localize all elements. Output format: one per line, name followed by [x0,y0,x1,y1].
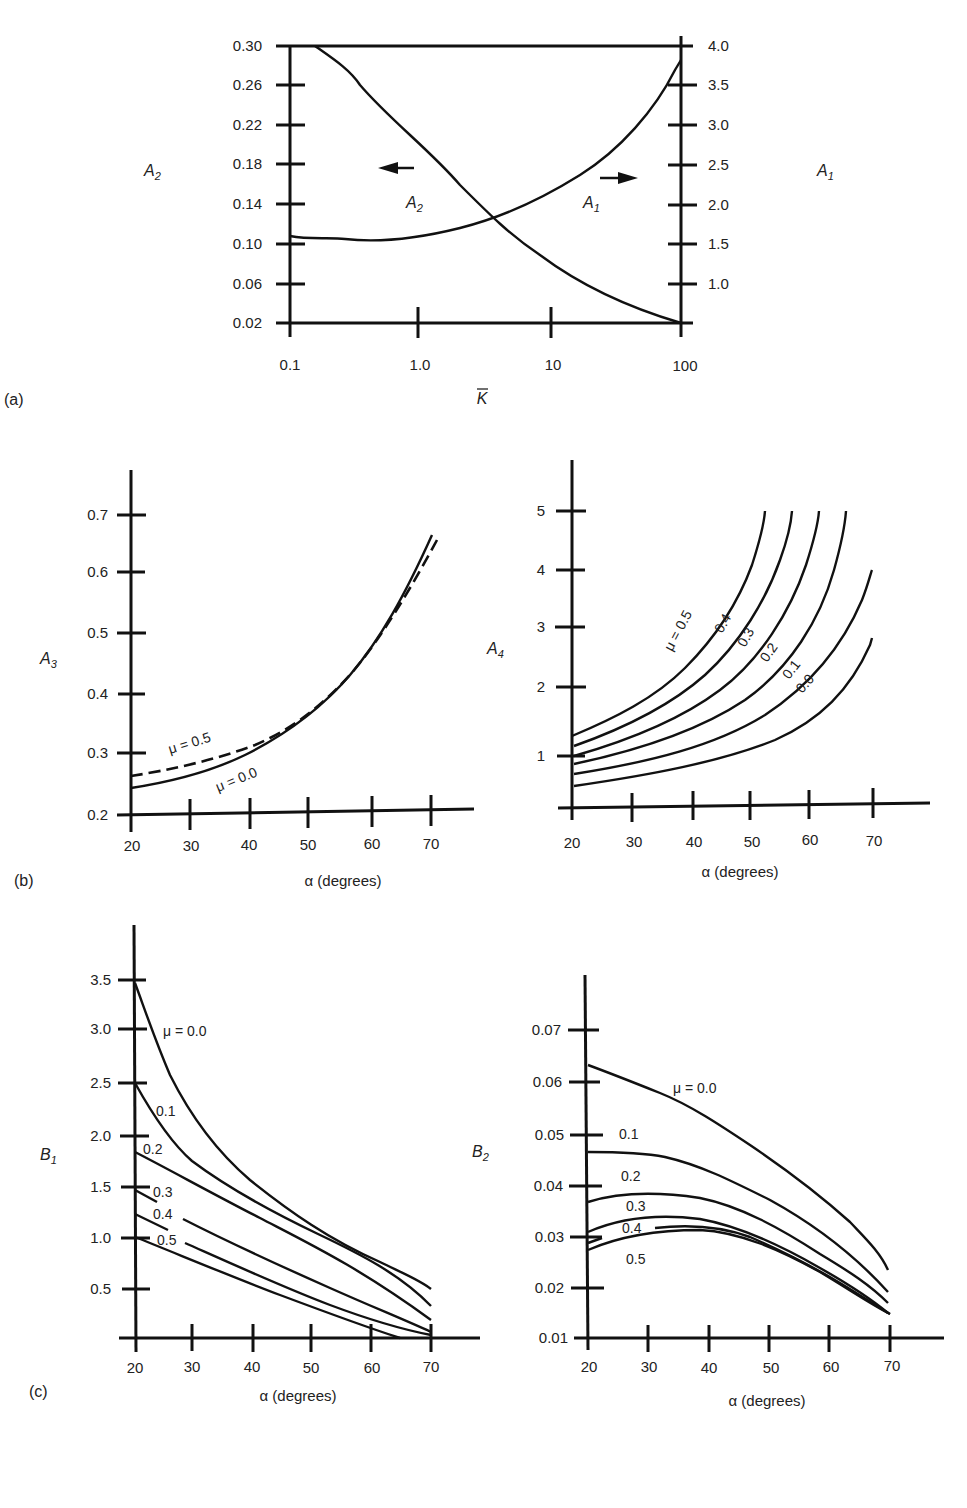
c-right-x-axis-label: α (degrees) [728,1392,805,1409]
c-right-x-tick-label: 70 [884,1357,901,1374]
c-left-y-tick-label: 1.5 [90,1178,111,1195]
c-right-curve-label: 0.5 [626,1251,646,1267]
b-left-x-tick-label: 30 [183,837,200,854]
c-right-curve-label: 0.3 [626,1198,646,1214]
b-right-x-tick-label: 50 [744,833,761,850]
a-right-axis-label: A1 [816,162,834,182]
c-left-y-tick-label: 2.5 [90,1074,111,1091]
c-left-curve-label: 0.5 [157,1232,177,1248]
c-left-curve-mu-0.3b [185,1243,431,1335]
c-right-y-tick-label: 0.05 [535,1126,564,1143]
a-x-tick-label: 10 [545,356,562,373]
a-x-tick-label: 0.1 [280,356,301,373]
a-curve-a2 [315,46,681,323]
c-left-x-tick-label: 70 [423,1358,440,1375]
c-right-y-tick-label: 0.07 [532,1021,561,1038]
a-right-tick-label: 1.5 [708,235,729,252]
chart-b-left: 0.7 0.6 0.5 0.4 0.3 0.2 20 30 40 50 60 7… [14,470,474,889]
c-left-x-tick-label: 20 [127,1359,144,1376]
a-left-tick-label: 0.22 [233,116,262,133]
a-curve-a1 [290,60,681,240]
c-right-curve-label: μ = 0.0 [673,1080,717,1096]
c-left-x-tick-label: 60 [364,1359,381,1376]
b-right-y-tick-label: 4 [537,561,545,578]
a-left-tick-label: 0.30 [233,37,262,54]
b-right-x-axis-label: α (degrees) [701,863,778,880]
a-right-tick-label: 3.5 [708,76,729,93]
b-left-y-axis-label: A3 [39,650,58,670]
b-right-x-tick-label: 70 [866,832,883,849]
b-right-curve-label: 0.2 [756,639,780,664]
b-right-curve-label: μ = 0.5 [661,607,696,653]
c-left-y-tick-label: 1.0 [90,1229,111,1246]
b-right-y-tick-label: 3 [537,618,545,635]
c-left-y-tick-label: 0.5 [90,1280,111,1297]
a-right-tick-label: 2.5 [708,156,729,173]
a-right-tick-label: 1.0 [708,275,729,292]
b-right-curve-label: 0.4 [711,610,735,635]
b-left-y-tick-label: 0.5 [87,624,108,641]
c-right-x-tick-label: 30 [641,1358,658,1375]
b-right-curve-mu-0.1 [574,570,872,774]
b-left-x-tick-label: 20 [124,837,141,854]
a-curve-label-a1: A1 [582,194,600,214]
b-right-curve-mu-0.2 [574,511,846,764]
a-curve-label-a2: A2 [405,194,423,214]
b-right-y-tick-label: 1 [537,747,545,764]
c-right-curve-mu-0.4-start [588,1238,602,1243]
c-right-x-tick-label: 50 [763,1359,780,1376]
b-left-y-tick-label: 0.4 [87,685,108,702]
b-left-x-axis-label: α (degrees) [304,872,381,889]
c-right-curve-label: 0.4 [622,1220,642,1236]
b-left-curve-label: μ = 0.5 [166,729,212,757]
a-x-tick-label: 100 [672,357,697,374]
c-right-curve-label: 0.2 [621,1168,641,1184]
a-left-tick-label: 0.06 [233,275,262,292]
a-right-tick-label: 2.0 [708,196,729,213]
c-left-y-tick-label: 2.0 [90,1127,111,1144]
c-left-curve-label: 0.4 [153,1206,173,1222]
chart-c-right: 0.07 0.06 0.05 0.04 0.03 0.02 0.01 20 30… [472,975,944,1409]
figure: 0.30 0.26 0.22 0.18 0.14 0.10 0.06 0.02 … [0,0,967,1508]
b-right-x-tick-label: 40 [686,833,703,850]
panel-label-b: (b) [14,872,34,889]
a-left-tick-label: 0.02 [233,314,262,331]
c-right-y-tick-label: 0.02 [535,1279,564,1296]
c-left-curve-label: 0.3 [153,1184,173,1200]
c-left-curve-mu-0.1 [135,1083,431,1306]
c-left-curve-label: 0.2 [143,1141,163,1157]
c-right-y-tick-label: 0.04 [534,1177,563,1194]
c-right-y-axis-label: B2 [472,1143,489,1163]
a-right-tick-label: 3.0 [708,116,729,133]
c-left-x-axis-label: α (degrees) [259,1387,336,1404]
c-left-x-tick-label: 50 [303,1359,320,1376]
a-left-tick-label: 0.14 [233,195,262,212]
b-left-x-axis [117,809,474,815]
chart-b-right: 5 4 3 2 1 20 30 40 50 60 70 A4 α (degree… [486,460,930,880]
c-left-x-tick-label: 30 [184,1358,201,1375]
b-left-y-tick-label: 0.7 [87,506,108,523]
c-right-curve-label: 0.1 [619,1126,639,1142]
c-right-y-tick-label: 0.01 [539,1329,568,1346]
a-arrow-right-icon [600,172,638,184]
a-x-tick-label: 1.0 [410,356,431,373]
c-left-y-axis-label: B1 [40,1146,57,1166]
b-right-x-tick-label: 60 [802,831,819,848]
b-right-x-tick-label: 30 [626,833,643,850]
c-right-x-tick-label: 40 [701,1359,718,1376]
c-left-curve-label: μ = 0.0 [163,1023,207,1039]
chart-c-left: 3.5 3.0 2.5 2.0 1.5 1.0 0.5 20 30 40 50 … [29,925,480,1404]
a-x-axis-label: K [477,390,489,407]
b-right-y-tick-label: 2 [537,678,545,695]
b-right-curve-label: 0.3 [734,624,758,649]
c-right-x-tick-label: 20 [581,1358,598,1375]
b-right-y-axis-label: A4 [486,640,504,660]
a-left-axis-label: A2 [143,162,161,182]
b-left-x-tick-label: 50 [300,836,317,853]
a-left-tick-label: 0.18 [233,155,262,172]
c-left-y-tick-label: 3.5 [90,971,111,988]
a-right-tick-label: 4.0 [708,37,729,54]
c-left-x-tick-label: 40 [244,1358,261,1375]
b-left-x-tick-label: 40 [241,836,258,853]
chart-a: 0.30 0.26 0.22 0.18 0.14 0.10 0.06 0.02 … [4,36,834,408]
